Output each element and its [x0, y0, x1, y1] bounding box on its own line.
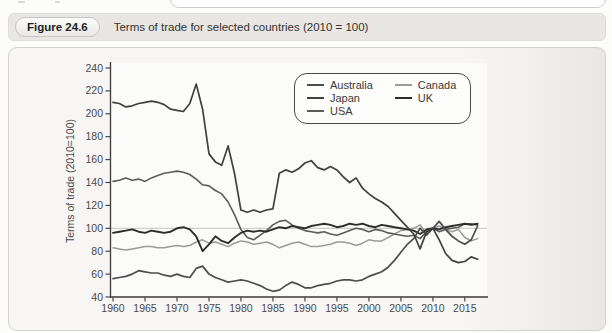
chart-legend: AustraliaCanadaJapanUKUSA [294, 73, 471, 124]
svg-text:Terms of trade (2010=100): Terms of trade (2010=100) [64, 119, 76, 243]
terms-of-trade-line-chart: 4060801001201401601802002202401960196519… [0, 0, 612, 333]
legend-item-canada: Canada [395, 79, 457, 91]
svg-text:100: 100 [85, 222, 103, 234]
svg-text:140: 140 [85, 176, 103, 188]
svg-text:1985: 1985 [261, 302, 285, 314]
legend-item-uk: UK [395, 92, 457, 104]
legend-label: USA [330, 105, 353, 117]
svg-text:80: 80 [91, 245, 103, 257]
legend-label: Australia [330, 79, 373, 91]
svg-text:180: 180 [85, 130, 103, 142]
svg-text:2005: 2005 [389, 302, 413, 314]
svg-text:60: 60 [91, 268, 103, 280]
svg-text:1960: 1960 [101, 302, 125, 314]
svg-text:240: 240 [85, 62, 103, 74]
legend-label: Canada [418, 79, 457, 91]
legend-item-japan: Japan [307, 92, 373, 104]
svg-text:200: 200 [85, 107, 103, 119]
svg-text:1980: 1980 [229, 302, 253, 314]
svg-text:2000: 2000 [357, 302, 381, 314]
svg-text:40: 40 [91, 291, 103, 303]
svg-text:1990: 1990 [293, 302, 317, 314]
svg-text:160: 160 [85, 153, 103, 165]
svg-text:1970: 1970 [165, 302, 189, 314]
legend-item-usa: USA [307, 105, 373, 117]
svg-text:1975: 1975 [197, 302, 221, 314]
legend-swatch-australia [307, 84, 324, 86]
legend-item-australia: Australia [307, 79, 373, 91]
legend-swatch-canada [395, 84, 412, 86]
svg-text:220: 220 [85, 84, 103, 96]
legend-swatch-japan [307, 97, 324, 99]
svg-text:1995: 1995 [325, 302, 349, 314]
svg-text:1965: 1965 [133, 302, 157, 314]
legend-swatch-uk [395, 97, 412, 99]
legend-label: UK [418, 92, 433, 104]
svg-text:120: 120 [85, 199, 103, 211]
svg-text:2010: 2010 [421, 302, 445, 314]
legend-swatch-usa [307, 110, 324, 112]
legend-label: Japan [330, 92, 360, 104]
svg-text:2015: 2015 [453, 302, 477, 314]
textbook-page: Figure 24.6 Terms of trade for selected … [0, 0, 612, 333]
